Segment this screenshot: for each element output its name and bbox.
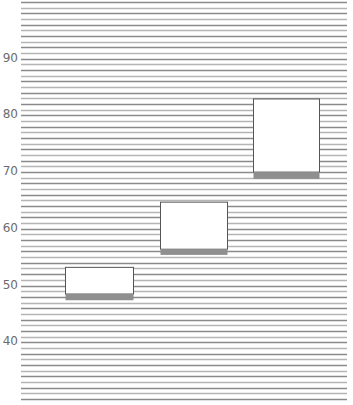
plot-area	[0, 0, 353, 405]
box-band	[161, 249, 228, 255]
box-1	[66, 267, 134, 300]
box-3	[254, 99, 320, 179]
y-tick-label: 50	[0, 278, 18, 292]
box-band	[66, 294, 134, 300]
chart: 405060708090	[0, 0, 353, 405]
y-tick-label: 40	[0, 334, 18, 348]
box-2	[161, 202, 228, 255]
y-tick-label: 60	[0, 221, 18, 235]
y-tick-label: 70	[0, 164, 18, 178]
y-tick-label: 90	[0, 51, 18, 65]
y-tick-label: 80	[0, 107, 18, 121]
box-band	[254, 172, 320, 179]
